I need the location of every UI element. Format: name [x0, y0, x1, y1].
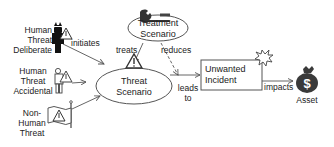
label-line: Threat [8, 35, 52, 45]
svg-text:$: $ [303, 76, 311, 91]
edge-label-treats: treats [116, 45, 137, 55]
edge-label-reduces: reduces [161, 45, 191, 55]
label-line: Scenario [130, 29, 186, 40]
edge-label-leads-to: leads to [176, 83, 200, 103]
flag-warning-icon [48, 101, 72, 128]
devil-person-warning-icon [52, 22, 72, 53]
human-threat-deliberate-label: Human Threat Deliberate [8, 25, 52, 55]
label-line: Human [14, 118, 50, 128]
label-line: Treatment [130, 18, 186, 29]
label-line: Deliberate [8, 45, 52, 55]
label-line: to [176, 93, 200, 103]
label-line: Accidental [12, 86, 54, 96]
person-warning-icon [55, 68, 72, 93]
treatment-scenario-label: Treatment Scenario [130, 18, 186, 40]
label-line: Scenario [106, 87, 162, 98]
label-line: Unwanted [205, 64, 257, 75]
edge-accidental [72, 82, 86, 83]
edge-label-initiates: initiates [71, 38, 100, 48]
label-line: Threat [106, 76, 162, 87]
label-line: leads [176, 83, 200, 93]
asset-label: Asset [293, 95, 321, 105]
edge-non-human [72, 96, 100, 109]
label-line: Threat [14, 128, 50, 138]
threat-scenario-label: Threat Scenario [106, 76, 162, 98]
edge-label-impacts: impacts [264, 82, 293, 92]
label-line: Incident [205, 75, 257, 86]
label-line: Human [12, 66, 54, 76]
warning-triangle-icon [126, 54, 142, 68]
label-line: Threat [12, 76, 54, 86]
unwanted-incident-label: Unwanted Incident [205, 64, 257, 86]
non-human-threat-label: Non- Human Threat [14, 108, 50, 138]
human-threat-accidental-label: Human Threat Accidental [12, 66, 54, 96]
label-line: Non- [14, 108, 50, 118]
label-line: Human [8, 25, 52, 35]
money-bag-icon[interactable]: $ [296, 66, 318, 93]
